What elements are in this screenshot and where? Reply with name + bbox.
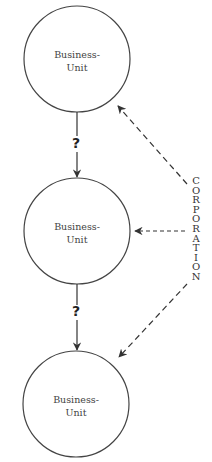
unit-label-line2: Unit <box>67 62 88 73</box>
business-unit-label-3: Business- Unit <box>26 393 126 419</box>
dashed-arrow-to-unit1 <box>118 106 187 184</box>
question-mark-2: ? <box>72 303 80 319</box>
unit-label-line1: Business- <box>54 49 100 60</box>
corporation-label: C O R P O R A T I O N <box>189 176 203 282</box>
business-unit-label-2: Business- Unit <box>27 220 127 246</box>
question-mark-1: ? <box>72 135 80 151</box>
dashed-arrow-to-unit3 <box>119 284 187 357</box>
unit-label-line2: Unit <box>66 407 87 418</box>
business-unit-label-1: Business- Unit <box>27 48 127 74</box>
unit-label-line1: Business- <box>54 221 100 232</box>
unit-label-line1: Business- <box>53 394 99 405</box>
corp-letter: N <box>189 272 203 282</box>
unit-label-line2: Unit <box>67 234 88 245</box>
